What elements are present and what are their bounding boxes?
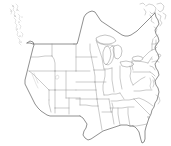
coastal-detail-northeast: [140, 3, 166, 32]
state-boundaries-east: [130, 35, 161, 126]
state-boundaries-west: [29, 44, 80, 114]
us-outline-map: [0, 0, 171, 146]
national-outline-layer: [25, 11, 159, 143]
map-canvas: [0, 0, 171, 146]
great-lakes-layer: [96, 35, 143, 67]
coastal-islands-northwest: [10, 4, 23, 45]
